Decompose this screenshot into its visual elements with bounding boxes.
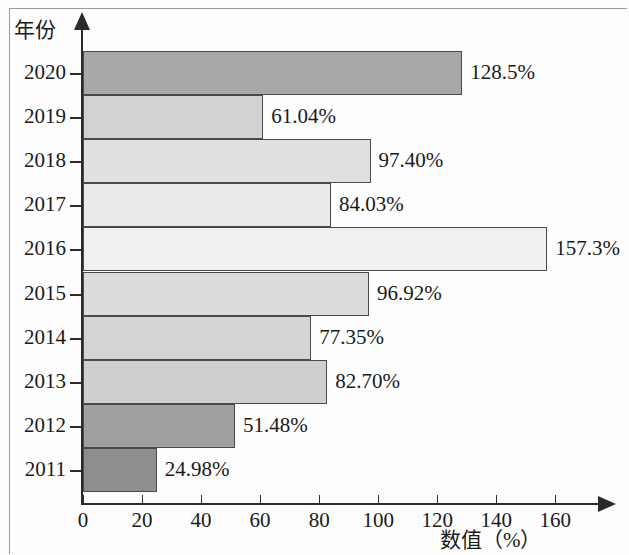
y-axis-tick-label-2014: 2014	[0, 325, 66, 350]
y-axis-arrowhead	[74, 12, 90, 30]
y-axis-tick-2014	[70, 338, 82, 340]
x-axis-tick-label-120: 120	[407, 508, 467, 533]
x-axis-line	[81, 503, 602, 505]
bar-chart-figure: 年份 数值（%） 128.5%61.04%97.40%84.03%157.3%9…	[0, 0, 629, 555]
y-axis-tick-label-2020: 2020	[0, 60, 66, 85]
x-axis-tick-140	[496, 495, 497, 504]
y-axis-tick-2013	[70, 382, 82, 384]
x-axis-tick-60	[260, 495, 261, 504]
bar-2015	[83, 272, 369, 316]
x-axis-tick-label-160: 160	[525, 508, 585, 533]
bar-2014	[83, 316, 311, 360]
bar-value-label-2019: 61.04%	[271, 104, 336, 129]
x-axis-tick-label-40: 40	[171, 508, 231, 533]
bar-value-label-2012: 51.48%	[243, 413, 308, 438]
bar-2019	[83, 95, 263, 139]
x-axis-tick-100	[378, 495, 379, 504]
x-axis-tick-label-20: 20	[112, 508, 172, 533]
y-axis-tick-label-2017: 2017	[0, 192, 66, 217]
bar-2011	[83, 448, 157, 492]
bar-value-label-2013: 82.70%	[335, 369, 400, 394]
bar-2018	[83, 139, 371, 183]
y-axis-tick-2012	[70, 426, 82, 428]
bar-value-label-2016: 157.3%	[555, 236, 620, 261]
x-axis-tick-label-60: 60	[230, 508, 290, 533]
x-axis-tick-0	[83, 495, 84, 504]
y-axis-tick-label-2012: 2012	[0, 413, 66, 438]
x-axis-tick-label-100: 100	[348, 508, 408, 533]
plot-area: 年份 数值（%） 128.5%61.04%97.40%84.03%157.3%9…	[0, 0, 629, 555]
y-axis-tick-2011	[70, 470, 82, 472]
y-axis-title: 年份	[14, 18, 56, 43]
bar-value-label-2018: 97.40%	[379, 148, 444, 173]
x-axis-tick-label-80: 80	[289, 508, 349, 533]
y-axis-tick-2018	[70, 161, 82, 163]
x-axis-tick-80	[319, 495, 320, 504]
y-axis-tick-label-2018: 2018	[0, 148, 66, 173]
x-axis-tick-label-0: 0	[53, 508, 113, 533]
y-axis-tick-label-2011: 2011	[0, 457, 66, 482]
x-axis-arrowhead	[598, 496, 616, 512]
y-axis-tick-label-2016: 2016	[0, 236, 66, 261]
bar-2013	[83, 360, 327, 404]
y-axis-tick-label-2015: 2015	[0, 281, 66, 306]
bar-2016	[83, 227, 547, 271]
bar-value-label-2011: 24.98%	[165, 457, 230, 482]
y-axis-tick-2015	[70, 294, 82, 296]
x-axis-tick-label-140: 140	[466, 508, 526, 533]
bar-value-label-2015: 96.92%	[377, 281, 442, 306]
y-axis-tick-label-2013: 2013	[0, 369, 66, 394]
x-axis-tick-160	[555, 495, 556, 504]
y-axis-tick-2016	[70, 249, 82, 251]
bar-2012	[83, 404, 235, 448]
bar-2017	[83, 183, 331, 227]
y-axis-tick-2020	[70, 73, 82, 75]
bar-2020	[83, 51, 462, 95]
bar-value-label-2020: 128.5%	[470, 60, 535, 85]
y-axis-tick-2017	[70, 205, 82, 207]
x-axis-tick-120	[437, 495, 438, 504]
bar-value-label-2017: 84.03%	[339, 192, 404, 217]
x-axis-tick-40	[201, 495, 202, 504]
x-axis-tick-20	[142, 495, 143, 504]
y-axis-tick-label-2019: 2019	[0, 104, 66, 129]
bar-value-label-2014: 77.35%	[319, 325, 384, 350]
y-axis-tick-2019	[70, 117, 82, 119]
